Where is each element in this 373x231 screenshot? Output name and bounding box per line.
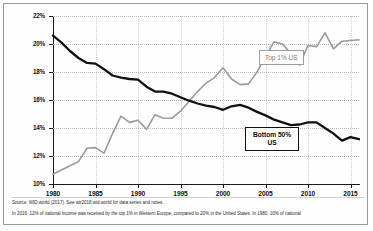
bottom50-label-line2: US (267, 139, 276, 146)
x-tick-label: 1990 (124, 190, 152, 197)
footnote-divider (12, 197, 364, 198)
x-axis-line (53, 184, 360, 185)
x-tick-mark (181, 184, 182, 188)
figure-container: Share of national income (%) 10%12%14%16… (3, 3, 368, 225)
series-label-top-1-percent-us: Top 1% US (259, 50, 304, 65)
y-tick-label: 10% (33, 180, 45, 187)
plot-area (53, 16, 359, 184)
bottom50-label-line1: Bottom 50% (253, 131, 291, 138)
y-tick-label: 14% (33, 124, 45, 131)
series-line-bottom-50-percent-us (53, 36, 359, 141)
x-tick-mark (53, 184, 54, 188)
footnote-source: Source: WID.world (2017). See wir2018.wi… (12, 200, 364, 205)
x-tick-label: 1980 (39, 190, 67, 197)
x-tick-label: 2000 (209, 190, 237, 197)
x-tick-mark (308, 184, 309, 188)
x-tick-mark (266, 184, 267, 188)
x-tick-mark (223, 184, 224, 188)
y-tick-label: 12% (33, 152, 45, 159)
y-tick-label: 18% (33, 68, 45, 75)
x-tick-label: 2015 (337, 190, 365, 197)
x-tick-label: 1985 (82, 190, 110, 197)
footnotes: Source: WID.world (2017). See wir2018.wi… (12, 200, 364, 216)
y-tick-label: 22% (33, 12, 45, 19)
y-tick-label: 16% (33, 96, 45, 103)
x-tick-mark (96, 184, 97, 188)
x-tick-label: 2010 (294, 190, 322, 197)
x-tick-label: 2005 (252, 190, 280, 197)
x-tick-label: 1995 (167, 190, 195, 197)
series-layer (53, 16, 359, 184)
footnote-note: In 2016, 12% of national income was rece… (12, 211, 364, 216)
x-tick-mark (351, 184, 352, 188)
x-tick-mark (138, 184, 139, 188)
series-line-top-1-percent-us (53, 33, 359, 174)
y-tick-label: 20% (33, 40, 45, 47)
series-label-bottom-50-percent-us: Bottom 50% US (245, 127, 299, 151)
